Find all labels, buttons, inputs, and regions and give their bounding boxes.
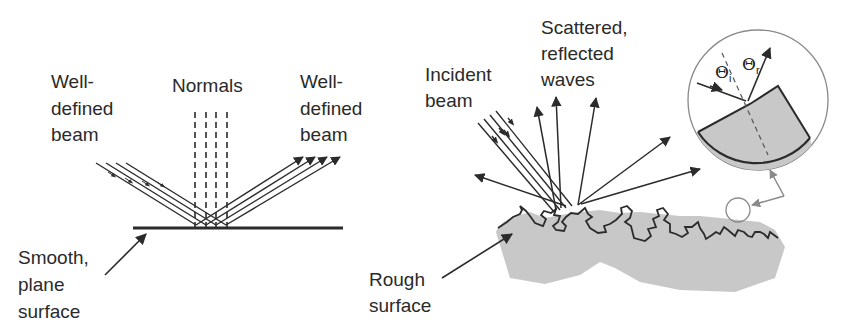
rough-surface-pointer-arrow [442,234,512,278]
magnifier-small-circle [726,198,750,222]
scattered-waves-label: Scattered, reflected waves [540,17,633,90]
incident-beam-label: Well- defined beam [51,71,119,145]
rough-reflection-panel: Incident beam Scattered, reflected waves… [369,17,828,316]
rough-surface-body [496,210,785,292]
scattered-rays [475,97,700,210]
normals-dashed-lines [195,112,227,228]
reflection-diagram: Well- defined beam Normals Well- defined… [0,0,851,334]
magnified-inset: Θi Θr [688,30,828,190]
magnify-pointer-arrows [752,170,784,205]
smooth-surface-pointer-arrow [105,234,146,275]
incident-beam-label-right: Incident beam [425,64,497,111]
rough-surface-label: Rough surface [369,269,431,316]
normals-label: Normals [172,75,243,96]
smooth-reflection-panel: Well- defined beam Normals Well- defined… [18,71,368,322]
smooth-surface-label: Smooth, plane surface [18,247,94,322]
theta-i-label: Θi [715,62,731,84]
reflected-beam-label: Well- defined beam [300,71,368,145]
reflected-rays [196,157,340,225]
